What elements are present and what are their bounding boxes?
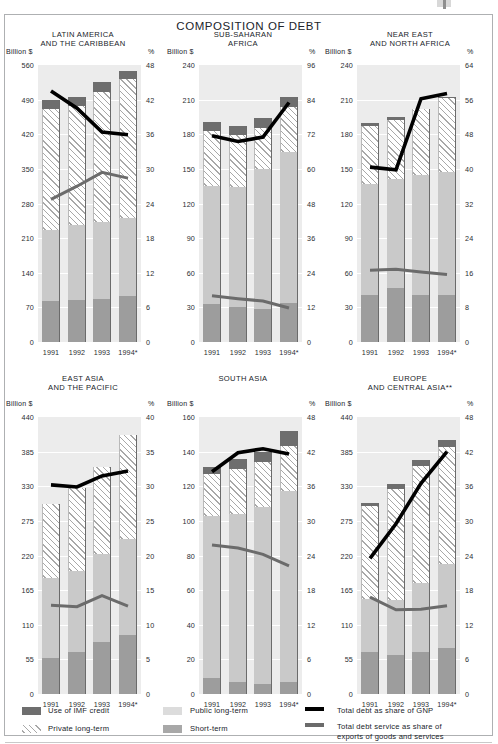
legend-label-svc: Total debt service as share of	[337, 722, 442, 732]
line-debt-service-share-exports	[370, 597, 447, 610]
line-overlay-europe-central-asia	[322, 0, 498, 744]
line-debt-share-gnp	[212, 449, 289, 472]
gray-line-swatch	[305, 723, 324, 727]
imf-swatch	[22, 707, 41, 715]
legend-label-srt: Short-term	[190, 724, 228, 734]
public-longterm-swatch	[163, 707, 182, 715]
legend-label-svc-line2: exports of goods and services	[337, 732, 444, 742]
panel-east-asia-pacific: EAST ASIAAND THE PACIFICBillion $%055110…	[0, 0, 166, 744]
legend-label-imf: Use of IMF credit	[48, 706, 109, 716]
short-term-swatch	[163, 725, 182, 733]
line-debt-share-gnp	[370, 452, 447, 559]
legend-label-gnp: Total debt as share of GNP	[337, 706, 433, 716]
legend-label-pub: Public long-term	[190, 706, 248, 716]
line-overlay-east-asia-pacific	[0, 0, 166, 744]
panel-europe-central-asia: EUROPEAND CENTRAL ASIA**Billion $%055110…	[322, 0, 498, 744]
line-debt-service-share-exports	[51, 596, 128, 607]
line-overlay-south-asia	[160, 0, 326, 744]
legend-label-priv: Private long-term	[48, 724, 109, 734]
legend: Use of IMF creditPrivate long-termPublic…	[0, 702, 498, 744]
legend-divider	[5, 742, 492, 743]
panel-south-asia: SOUTH ASIABillion $%02040608010012014016…	[160, 0, 326, 744]
line-debt-service-share-exports	[212, 545, 289, 566]
black-line-swatch	[305, 707, 324, 711]
line-debt-share-gnp	[51, 471, 128, 487]
private-longterm-swatch	[22, 725, 41, 733]
chart-page: COMPOSITION OF DEBT LATIN AMERICAAND THE…	[0, 0, 498, 744]
